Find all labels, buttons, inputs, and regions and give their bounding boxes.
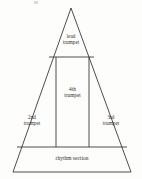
second-trumpet-label: 2nd trumpet (11, 114, 53, 127)
third-trumpet-label: 3rd trumpet (90, 114, 132, 127)
second-trumpet-label-line2: trumpet (11, 120, 53, 126)
fourth-trumpet-label-line2: trumpet (48, 92, 97, 98)
rhythm-section-label-line1: rhythm section (21, 155, 123, 161)
rhythm-section-label: rhythm section (21, 155, 123, 161)
fourth-trumpet-label: 4th trumpet (48, 86, 97, 99)
third-trumpet-label-line2: trumpet (90, 120, 132, 126)
scan-artifact-speck (34, 1, 38, 4)
lead-trumpet-label-line2: trumpet (44, 39, 98, 45)
trumpet-section-diagram: lead trumpet 4th trumpet 2nd trumpet 3rd… (0, 0, 142, 179)
lead-trumpet-label: lead trumpet (44, 33, 98, 46)
